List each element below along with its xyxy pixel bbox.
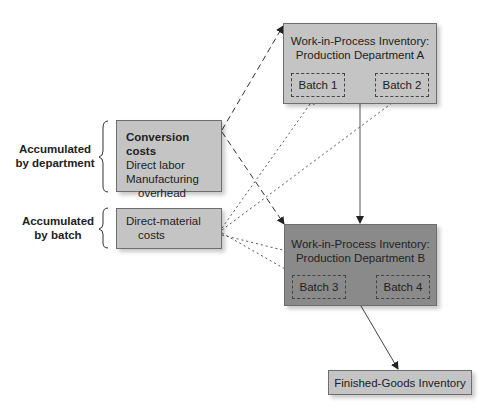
batch-2-box: Batch 2 [375,73,429,97]
conversion-costs-heading: Conversion costs [126,130,221,158]
brace-by-batch [99,208,108,248]
material-to-batch1-arrow [222,97,315,228]
batch-1-box: Batch 1 [291,73,345,97]
finished-goods-box: Finished-Goods Inventory [328,370,472,395]
label-line: by department [10,156,100,170]
costs-text: costs [126,228,201,242]
brace-by-department [99,121,108,192]
conversion-to-wip-b-arrow [222,132,284,224]
wip-a-title-line1: Work-in-Process Inventory: [284,34,436,48]
overhead-text: overhead [126,186,221,200]
conversion-to-wip-a-arrow [222,26,283,130]
material-to-batch2-arrow [222,97,400,230]
direct-labor-text: Direct labor [126,158,221,172]
conversion-costs-box: Conversion costs Direct labor Manufactur… [116,120,222,192]
label-accumulated-by-batch: Accumulated by batch [18,214,98,242]
direct-material-box: Direct-material costs [116,208,222,249]
batch-4-box: Batch 4 [376,275,430,299]
direct-material-text: Direct-material [126,214,201,228]
material-to-batch3-arrow [222,233,292,273]
label-accumulated-by-department: Accumulated by department [10,142,100,170]
wip-b-to-finished-goods-arrow [361,306,398,369]
wip-b-title-line1: Work-in-Process Inventory: [285,237,436,251]
wip-department-a-box: Work-in-Process Inventory: Production De… [283,23,437,104]
label-line: Accumulated [18,214,98,228]
label-line: by batch [18,228,98,242]
finished-goods-label: Finished-Goods Inventory [329,371,471,394]
wip-department-b-box: Work-in-Process Inventory: Production De… [284,224,437,306]
wip-a-title-line2: Production Department A [284,48,436,62]
wip-b-title-line2: Production Department B [285,251,436,265]
manufacturing-text: Manufacturing [126,172,221,186]
label-line: Accumulated [10,142,100,156]
batch-3-box: Batch 3 [292,275,346,299]
